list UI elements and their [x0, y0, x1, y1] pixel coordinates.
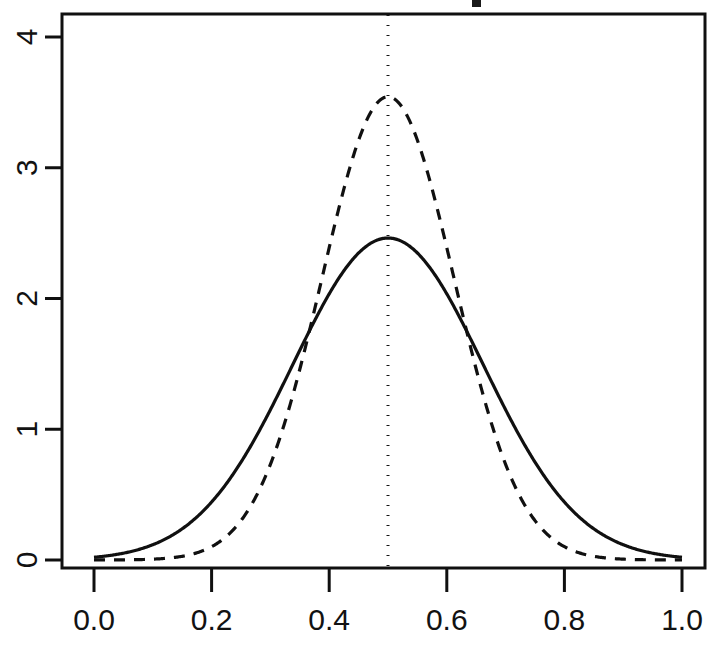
x-tick-label: 0.8: [544, 603, 586, 636]
cropped-title-artifact: [472, 0, 481, 7]
x-tick-label: 0.6: [426, 603, 468, 636]
y-tick-label: 0: [10, 552, 43, 569]
x-tick-label: 0.4: [308, 603, 350, 636]
plot-background: [0, 0, 717, 650]
y-tick-label: 1: [10, 421, 43, 438]
y-tick-label: 2: [10, 290, 43, 307]
x-tick-label: 0.0: [73, 603, 115, 636]
x-tick-label: 1.0: [661, 603, 703, 636]
x-tick-label: 0.2: [191, 603, 233, 636]
y-tick-label: 3: [10, 159, 43, 176]
plot-canvas: 01234 0.00.20.40.60.81.0: [0, 0, 717, 650]
y-tick-label: 4: [10, 29, 43, 46]
density-plot-figure: 01234 0.00.20.40.60.81.0: [0, 0, 717, 650]
